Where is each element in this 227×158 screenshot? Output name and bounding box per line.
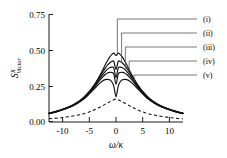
legend-leader-ii (122, 33, 197, 63)
legend-group: (i)(ii)(iii)(iv)(v) (117, 15, 215, 84)
y-tick-label-0.25: 0.25 (29, 82, 45, 92)
x-tick-label--10: -10 (57, 126, 69, 136)
legend-label-v: (v) (203, 71, 213, 80)
x-axis-title: ω/κ (109, 140, 123, 150)
legend-leader-v (134, 75, 197, 83)
y-axis-title-subscript: Victor (15, 58, 22, 74)
y-tick-label-0.50: 0.50 (29, 46, 45, 56)
x-tick-label-5: 5 (140, 126, 145, 136)
y-tick-label-0.00: 0.00 (29, 117, 45, 127)
svg-text:SXVictor: SXVictor (9, 58, 23, 78)
x-tick-label-10: 10 (165, 126, 175, 136)
series-reference-curve (49, 99, 183, 119)
axes-group (49, 14, 183, 122)
legend-label-i: (i) (203, 15, 211, 24)
legend-label-iv: (iv) (203, 57, 215, 66)
series-iii-curve (49, 67, 183, 113)
x-tick-label--5: -5 (86, 126, 94, 136)
legend-label-iii: (iii) (203, 43, 215, 52)
y-tick-labels: 0.75 0.50 0.25 0.00 (29, 10, 45, 127)
legend-leader-iv (129, 61, 197, 74)
x-tick-label-0: 0 (114, 126, 119, 136)
legend-leader-i (117, 19, 197, 55)
series-ii-curve (49, 61, 183, 113)
y-tick-marks (49, 15, 53, 122)
line-chart: 0.75 0.50 0.25 0.00 -10 -5 0 5 10 ω/κ SX… (0, 0, 227, 158)
legend-label-ii: (ii) (203, 29, 213, 38)
chart-figure: 0.75 0.50 0.25 0.00 -10 -5 0 5 10 ω/κ SX… (0, 0, 227, 158)
x-tick-labels: -10 -5 0 5 10 (57, 126, 175, 136)
y-tick-label-0.75: 0.75 (29, 10, 45, 20)
y-axis-title: SXVictor (9, 58, 23, 78)
legend-leader-iii (125, 47, 197, 69)
data-series-group (49, 53, 183, 119)
x-axis-title-text: ω/κ (109, 140, 123, 150)
x-tick-marks (63, 117, 170, 122)
